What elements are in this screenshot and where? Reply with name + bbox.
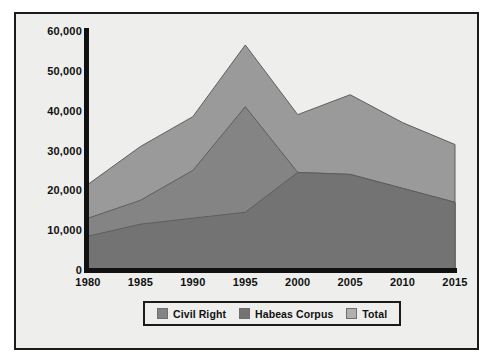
y-axis-tick-label: 60,000 bbox=[47, 25, 82, 37]
chart-figure: 010,00020,00030,00040,00050,00060,000 19… bbox=[0, 0, 493, 363]
legend-swatch-icon bbox=[157, 308, 168, 319]
legend-item[interactable]: Total bbox=[346, 308, 387, 320]
figure-border bbox=[14, 12, 479, 350]
y-axis-tick-labels: 010,00020,00030,00040,00050,00060,000 bbox=[20, 0, 82, 363]
x-axis-tick-label: 1995 bbox=[233, 276, 258, 288]
y-axis-tick-label: 40,000 bbox=[47, 105, 82, 117]
y-axis-tick-label: 0 bbox=[76, 264, 82, 276]
y-axis-tick-label: 10,000 bbox=[47, 224, 82, 236]
chart-legend: Civil RightHabeas CorpusTotal bbox=[143, 301, 401, 326]
x-axis-tick-label: 1990 bbox=[180, 276, 205, 288]
legend-swatch-icon bbox=[239, 308, 250, 319]
legend-item-label: Civil Right bbox=[173, 308, 226, 320]
legend-swatch-icon bbox=[346, 308, 357, 319]
x-axis-tick-labels: 19801985199019952000200520102015 bbox=[0, 276, 493, 294]
legend-item-label: Habeas Corpus bbox=[255, 308, 333, 320]
legend-item[interactable]: Habeas Corpus bbox=[239, 308, 333, 320]
y-axis-tick-label: 50,000 bbox=[47, 65, 82, 77]
y-axis-tick-label: 30,000 bbox=[47, 145, 82, 157]
legend-item-label: Total bbox=[362, 308, 387, 320]
x-axis-tick-label: 1985 bbox=[128, 276, 153, 288]
x-axis-tick-label: 2015 bbox=[442, 276, 467, 288]
x-axis-tick-label: 2000 bbox=[285, 276, 310, 288]
legend-item[interactable]: Civil Right bbox=[157, 308, 226, 320]
x-axis-tick-label: 2010 bbox=[390, 276, 415, 288]
x-axis-tick-label: 2005 bbox=[338, 276, 363, 288]
x-axis-tick-label: 1980 bbox=[75, 276, 100, 288]
y-axis-tick-label: 20,000 bbox=[47, 184, 82, 196]
